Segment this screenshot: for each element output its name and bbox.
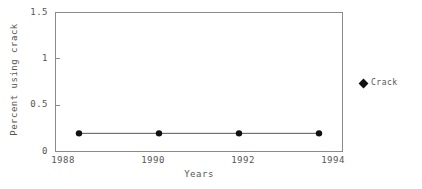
y-axis-title: Percent using crack (10, 10, 19, 150)
x-tick-label-1990: 1990 (141, 156, 165, 165)
x-tick-label-1994: 1994 (321, 156, 345, 165)
x-tick-label-1992: 1992 (231, 156, 255, 165)
y-tick-mark-0.5 (56, 105, 60, 106)
legend-marker-icon (359, 78, 369, 88)
y-tick-label-1: 1 (42, 54, 48, 63)
y-tick-label-1.5: 1.5 (30, 8, 48, 17)
y-tick-mark-1 (56, 58, 60, 59)
legend-entry-label: Crack (371, 79, 398, 87)
plot-area (55, 12, 343, 152)
x-axis-title: Years (0, 170, 398, 179)
x-tick-label-1988: 1988 (51, 156, 75, 165)
chart-figure: 1.5 1 0.5 0 1988 1990 1992 1994 Years Pe… (0, 0, 422, 189)
y-tick-label-0.5: 0.5 (30, 100, 48, 109)
chart-legend: Crack (360, 79, 398, 87)
y-tick-label-0: 0 (42, 147, 48, 156)
